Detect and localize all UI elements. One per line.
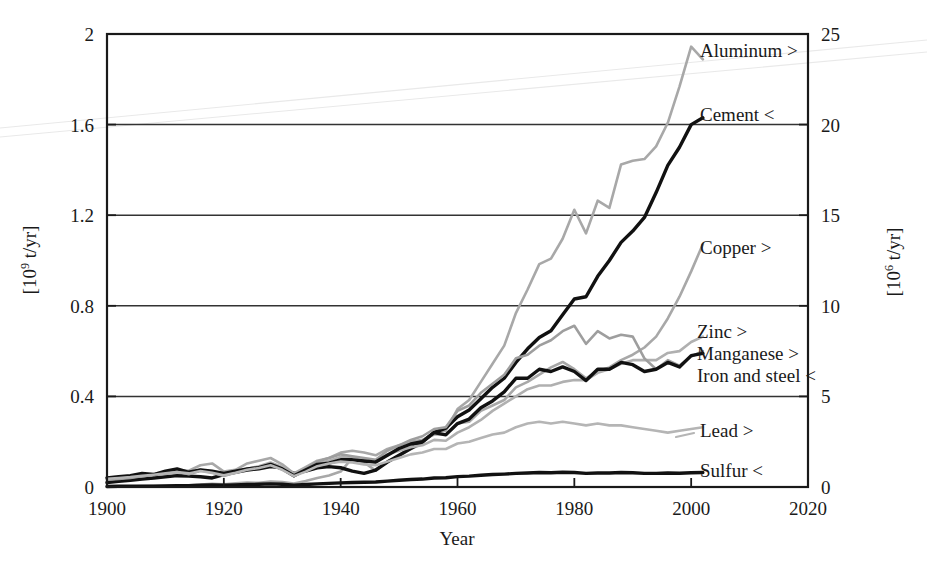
ytick-label-left-0.4: 0.4 (70, 386, 94, 407)
right-unit-tail: t/yr] (883, 228, 904, 265)
y-axis-right-title-group: [106 t/yr] (882, 228, 904, 297)
ytick-label-left-1.2: 1.2 (70, 205, 94, 226)
x-axis-title: Year (439, 528, 475, 549)
xtick-label-2000: 2000 (672, 498, 710, 519)
xtick-label-1980: 1980 (555, 498, 593, 519)
chart-background (0, 0, 927, 582)
y-axis-left-title-group: [109 t/yr] (18, 226, 40, 295)
xtick-label-1920: 1920 (205, 498, 243, 519)
xtick-label-1960: 1960 (439, 498, 477, 519)
y-axis-left-title: [109 t/yr] (18, 226, 40, 295)
series-label-lead: Lead > (700, 420, 753, 441)
series-label-manganese: Manganese > (697, 343, 799, 364)
left-unit-tail: t/yr] (19, 226, 40, 263)
chart-figure: 190019201940196019802000202000.40.81.21.… (0, 0, 927, 582)
ytick-label-right-5: 5 (821, 386, 831, 407)
series-label-sulfur: Sulfur < (700, 460, 763, 481)
ytick-label-right-25: 25 (821, 24, 840, 45)
resource-production-line-chart: 190019201940196019802000202000.40.81.21.… (0, 0, 927, 582)
left-unit-base: [10 (19, 269, 40, 294)
ytick-label-right-10: 10 (821, 296, 840, 317)
xtick-label-2020: 2020 (789, 498, 827, 519)
ytick-label-left-1.6: 1.6 (70, 115, 94, 136)
ytick-label-left-0.8: 0.8 (70, 296, 94, 317)
xtick-label-1940: 1940 (322, 498, 360, 519)
series-label-zinc: Zinc > (697, 321, 747, 342)
series-label-aluminum: Aluminum > (700, 40, 798, 61)
ytick-label-left-0: 0 (85, 477, 95, 498)
y-axis-right-title: [106 t/yr] (882, 228, 904, 297)
right-unit-base: [10 (883, 271, 904, 296)
ytick-label-right-0: 0 (821, 477, 831, 498)
series-label-copper: Copper > (700, 237, 771, 258)
series-label-iron-and-steel: Iron and steel < (697, 365, 816, 386)
series-label-cement: Cement < (700, 104, 775, 125)
xtick-label-1900: 1900 (88, 498, 126, 519)
ytick-label-right-20: 20 (821, 115, 840, 136)
ytick-label-left-2: 2 (85, 24, 95, 45)
ytick-label-right-15: 15 (821, 205, 840, 226)
